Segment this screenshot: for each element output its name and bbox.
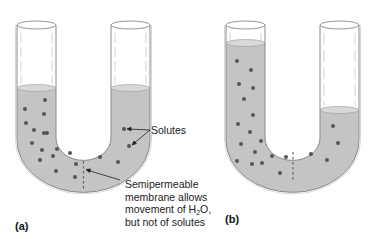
membrane-label-line1: Semipermeable bbox=[125, 178, 211, 191]
membrane-label: Semipermeable membrane allows movement o… bbox=[125, 178, 211, 228]
membrane-label-line2: membrane allows bbox=[125, 191, 211, 204]
solutes-label: Solutes bbox=[151, 124, 186, 137]
panel-label-b: (b) bbox=[225, 213, 239, 225]
u-tube-b bbox=[220, 21, 370, 213]
membrane-label-line3: movement of H2O, bbox=[125, 203, 211, 216]
membrane-label-line4: but not of solutes bbox=[125, 216, 211, 229]
panel-label-a: (a) bbox=[15, 220, 28, 232]
